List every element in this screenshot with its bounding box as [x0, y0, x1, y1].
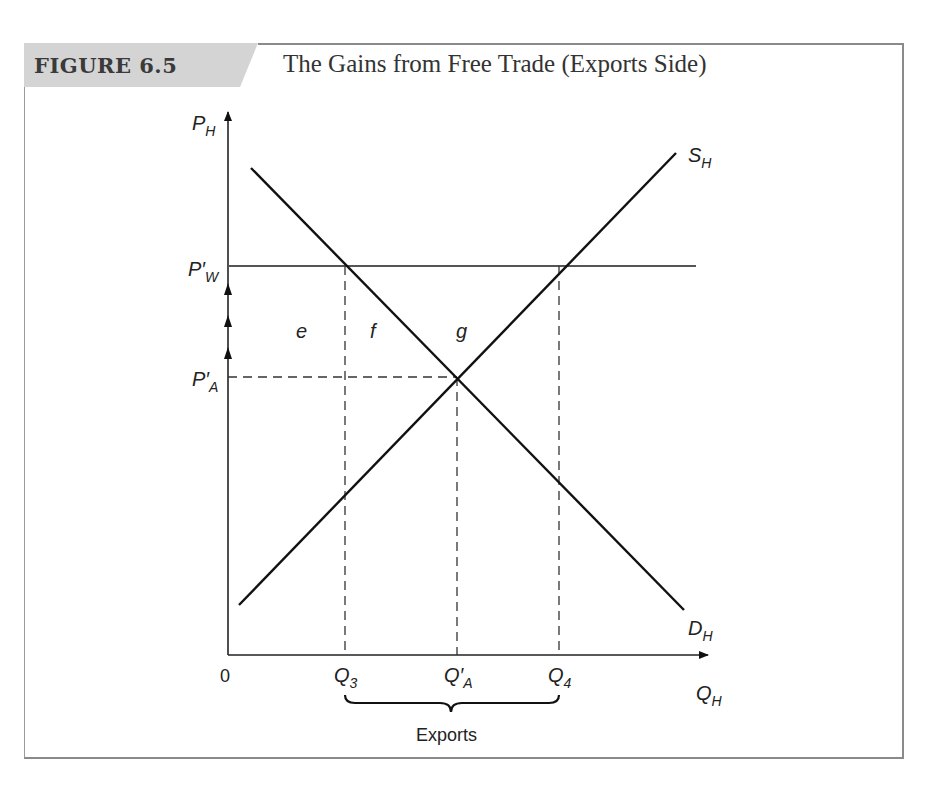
x-axis-label: QH — [696, 682, 723, 709]
area-g-label: g — [456, 320, 467, 342]
area-e-label: e — [296, 320, 307, 342]
tick-q3: Q3 — [334, 664, 358, 691]
up-arrow-icon — [224, 347, 232, 359]
exports-bracket — [345, 695, 559, 712]
demand-curve — [251, 168, 684, 610]
up-arrow-icon — [224, 315, 232, 327]
autarky-price-label: P′A — [192, 368, 218, 395]
price-rise-arrows — [224, 283, 232, 359]
area-f-label: f — [370, 320, 378, 342]
tick-q4: Q4 — [548, 664, 572, 691]
world-price-label: P′W — [188, 258, 220, 285]
y-axis-label: PH — [192, 112, 216, 139]
supply-label: SH — [688, 144, 712, 171]
tick-qa: Q′A — [444, 664, 473, 691]
trade-diagram: PH QH 0 SH DH P′W P′A Q3 Q′A Q4 e f g Ex… — [0, 0, 946, 812]
up-arrow-icon — [224, 283, 232, 295]
exports-label: Exports — [416, 725, 477, 745]
origin-label: 0 — [220, 666, 230, 686]
figure-container: FIGURE 6.5 The Gains from Free Trade (Ex… — [0, 0, 946, 812]
supply-curve — [239, 153, 676, 605]
demand-label: DH — [688, 617, 713, 644]
